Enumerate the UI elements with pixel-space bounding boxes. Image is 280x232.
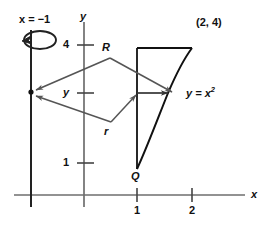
label-radius-r: r: [104, 126, 108, 137]
y-tick-label-1: 1: [63, 157, 69, 168]
outer-radius-arrows: [36, 58, 172, 92]
axis-of-revolution-group: [22, 30, 56, 207]
x-tick-label-2: 2: [189, 205, 195, 216]
x-tick-label-1: 1: [134, 205, 140, 216]
math-figure: x = −1 R r Q (2, 4) y = x2 x y 4 y 1 1 2: [0, 0, 280, 232]
y-tick-label-4: 4: [63, 39, 69, 50]
parabola-curve: [137, 48, 192, 169]
axes-group: [14, 22, 245, 207]
label-point-R: R: [102, 42, 110, 53]
R-arrow-to-axis: [36, 58, 110, 90]
curve-exponent: 2: [211, 85, 215, 94]
label-point-Q: Q: [131, 171, 140, 182]
region-boundary-group: [137, 48, 192, 169]
r-arrow-to-axis: [36, 96, 111, 122]
y-tick-label-y: y: [63, 87, 69, 98]
label-corner-point: (2, 4): [196, 17, 222, 28]
label-x-axis: x: [251, 189, 257, 200]
axis-point-dot: [28, 89, 33, 94]
r-arrow-to-boundary: [111, 95, 136, 122]
curve-equation-text: y = x: [186, 87, 211, 99]
R-arrow-to-curve: [110, 58, 172, 92]
figure-canvas: [0, 0, 280, 232]
label-axis-of-revolution: x = −1: [19, 14, 50, 25]
label-curve-equation: y = x2: [186, 88, 215, 99]
inner-radius-arrows: [36, 95, 136, 122]
label-y-axis: y: [80, 11, 86, 22]
